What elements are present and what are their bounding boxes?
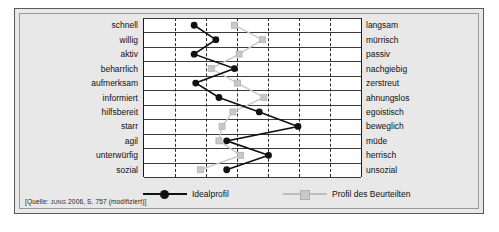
source-note-author: JUNG [51,199,67,205]
polarity-profile-figure: schnellwilligaktivbeharrlichaufmerksamin… [0,0,499,232]
data-point-circle [265,152,272,159]
axis-label-right: egoistisch [366,107,404,117]
axis-label-right: ahnungslos [366,93,409,103]
data-point-circle [223,166,230,173]
legend-entry-idealprofil: Idealprofil [143,186,229,202]
data-point-circle [231,65,238,72]
source-note-prefix: [Quelle: [25,198,51,205]
data-point-square [261,95,267,101]
grid-row-line [144,177,361,178]
axis-label-right: mürrisch [366,35,399,45]
legend-label: Idealprofil [192,189,229,199]
chart-legend: Idealprofil Profil des Beurteilten [143,186,443,202]
axis-label-right: müde [366,136,387,146]
axis-label-right: beweglich [366,121,404,131]
axis-label-right: herrisch [366,150,396,160]
series-layer [143,18,360,177]
axis-label-right: zerstreut [366,78,399,88]
data-point-circle [191,51,198,58]
data-point-square [231,22,237,28]
data-point-square [208,66,214,72]
source-note: [Quelle: JUNG 2006, S. 757 (modifiziert)… [25,198,147,205]
axis-label-right: nachgiebig [366,64,407,74]
series-line [194,25,298,170]
data-point-circle [223,137,230,144]
data-point-square [197,167,203,173]
data-point-square [216,138,222,144]
right-axis-labels: langsammürrischpassivnachgiebigzerstreut… [366,18,481,177]
axis-label-left: starr [121,121,138,131]
axis-label-right: passiv [366,49,390,59]
axis-label-left: willig [120,35,138,45]
data-point-square [238,152,244,158]
data-point-square [259,37,265,43]
data-point-circle [256,109,263,116]
legend-marker-square-icon [283,188,327,200]
legend-marker-circle-icon [143,188,187,200]
left-axis-labels: schnellwilligaktivbeharrlichaufmerksamin… [20,18,138,177]
axis-label-left: schnell [112,20,138,30]
data-point-square [235,80,241,86]
legend-label: Profil des Beurteilten [332,189,410,199]
axis-label-left: agil [125,136,138,146]
axis-label-right: langsam [366,20,398,30]
data-point-circle [212,36,219,43]
axis-label-left: sozial [116,165,138,175]
data-point-square [230,109,236,115]
axis-label-left: aktiv [121,49,138,59]
legend-entry-profil-des-beurteilten: Profil des Beurteilten [283,186,410,202]
axis-label-right: unsozial [366,165,397,175]
axis-label-left: hilfsbereit [102,107,138,117]
data-point-circle [216,94,223,101]
data-point-square [236,51,242,57]
data-point-square [219,123,225,129]
source-note-rest: 2006, S. 757 (modifiziert)] [66,198,146,205]
axis-label-left: beharrlich [101,64,138,74]
series-line [200,25,264,170]
axis-label-left: aufmerksam [91,78,138,88]
data-point-circle [191,22,198,29]
data-point-circle [192,80,199,87]
axis-label-left: informiert [103,93,138,103]
axis-label-left: unterwürfig [96,150,138,160]
data-point-circle [295,123,302,130]
